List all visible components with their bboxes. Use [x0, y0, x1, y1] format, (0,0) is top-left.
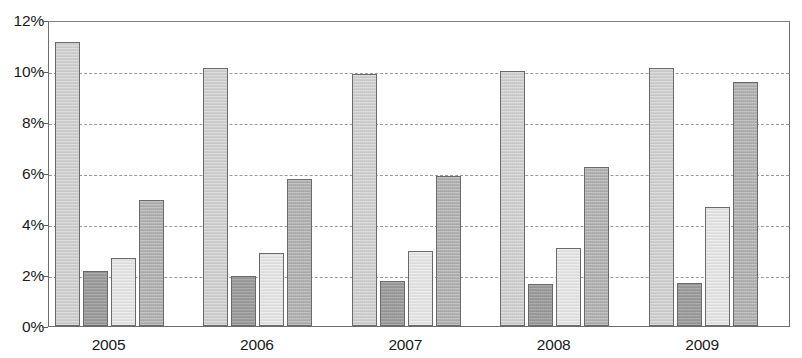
bar [83, 271, 108, 326]
bar [733, 82, 758, 326]
y-axis-tickmark [42, 327, 48, 328]
y-axis-tick-label: 0% [2, 318, 44, 336]
gridline [49, 73, 789, 74]
y-axis-tickmark [42, 21, 48, 22]
y-axis-tick-label: 12% [2, 12, 44, 30]
y-axis-tickmark [42, 225, 48, 226]
x-axis-tick-label: 2005 [92, 336, 126, 354]
y-axis: 0%2%4%6%8%10%12% [0, 0, 44, 358]
y-axis-tick-label: 6% [2, 165, 44, 183]
x-axis: 20052006200720082009 [48, 331, 790, 358]
bar-chart: 0%2%4%6%8%10%12% 20052006200720082009 [0, 0, 802, 358]
bar [259, 253, 284, 326]
gridline [49, 124, 789, 125]
bar [436, 176, 461, 326]
bar [231, 276, 256, 326]
bar [500, 71, 525, 326]
y-axis-tickmark [42, 276, 48, 277]
x-axis-tick-label: 2009 [685, 336, 719, 354]
y-axis-tickmark [42, 174, 48, 175]
bar [705, 207, 730, 326]
bar [584, 167, 609, 326]
bar [528, 284, 553, 326]
bar [352, 74, 377, 326]
y-axis-tick-label: 2% [2, 267, 44, 285]
bar [139, 200, 164, 326]
y-axis-tickmark [42, 72, 48, 73]
y-axis-tick-label: 4% [2, 216, 44, 234]
bar [556, 248, 581, 326]
bar [111, 258, 136, 326]
y-axis-tick-label: 10% [2, 63, 44, 81]
x-axis-tick-label: 2008 [537, 336, 571, 354]
bar [203, 68, 228, 326]
bar [649, 68, 674, 326]
plot-area [48, 21, 790, 327]
bar [677, 283, 702, 326]
x-axis-tick-label: 2007 [388, 336, 422, 354]
bar [287, 179, 312, 326]
x-axis-tick-label: 2006 [240, 336, 274, 354]
bar [408, 251, 433, 326]
bar [55, 42, 80, 326]
gridline [49, 175, 789, 176]
y-axis-tickmark [42, 123, 48, 124]
y-axis-tick-label: 8% [2, 114, 44, 132]
bar [380, 281, 405, 326]
